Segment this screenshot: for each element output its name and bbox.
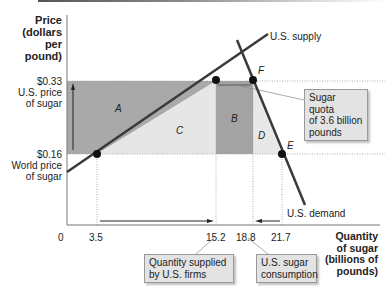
consumption-decrease-arrow — [255, 219, 280, 223]
x-tick-15-2: 15.2 — [206, 232, 225, 243]
point-e-label: E — [287, 140, 294, 151]
y-title-line: per — [2, 38, 62, 50]
y-axis-title: Price (dollars per pound) — [2, 14, 62, 62]
sugar-consumption-callout: U.S. sugar consumption — [256, 254, 317, 283]
y-title-line: pound) — [2, 50, 62, 62]
x-axis-title: Quantity of sugar (billions of pounds) — [318, 231, 378, 277]
quantity-supplied-callout: Quantity supplied by U.S. firms — [144, 254, 234, 283]
y-tick-label: U.S. price — [2, 87, 62, 98]
callout-line: U.S. sugar — [261, 257, 312, 269]
point-e — [278, 150, 286, 158]
x-tick-18-8: 18.8 — [236, 232, 255, 243]
supply-increase-arrow — [100, 219, 214, 223]
region-c-label: C — [176, 125, 183, 136]
region-a-label: A — [115, 103, 122, 114]
callout-line: consumption — [261, 269, 312, 281]
point-f-label: F — [258, 65, 264, 76]
x-title-line: Quantity — [318, 231, 378, 243]
y-tick-label: of sugar — [2, 98, 62, 109]
point-us-supply — [212, 76, 220, 84]
y-title-line: Price — [2, 14, 62, 26]
x-tick-3-5: 3.5 — [89, 232, 103, 243]
demand-label: U.S. demand — [287, 208, 345, 219]
y-tick-label: World price — [2, 160, 62, 171]
y-tick-label: of sugar — [2, 171, 62, 182]
callout-line: Quantity supplied — [149, 257, 229, 269]
x-tick-origin: 0 — [58, 232, 64, 243]
y-tick-low: $0.16 World price of sugar — [2, 149, 62, 182]
x-tick-21-7: 21.7 — [271, 232, 290, 243]
callout-line: of 3.6 billion — [309, 115, 363, 127]
callout-line: pounds — [309, 127, 363, 139]
x-title-line: (billions of — [318, 254, 378, 266]
y-tick-value: $0.16 — [2, 149, 62, 160]
x-title-line: pounds) — [318, 266, 378, 278]
point-f — [249, 76, 257, 84]
callout-line: Sugar quota — [309, 92, 363, 115]
y-title-line: (dollars — [2, 26, 62, 38]
y-tick-value: $0.33 — [2, 76, 62, 87]
sugar-quota-callout: Sugar quota of 3.6 billion pounds — [304, 89, 368, 141]
supply-label: U.S. supply — [270, 31, 321, 42]
region-b-label: B — [231, 113, 238, 124]
y-tick-high: $0.33 U.S. price of sugar — [2, 76, 62, 109]
point-world-supply — [93, 150, 101, 158]
region-d-label: D — [258, 130, 265, 141]
callout-line: by U.S. firms — [149, 269, 229, 281]
